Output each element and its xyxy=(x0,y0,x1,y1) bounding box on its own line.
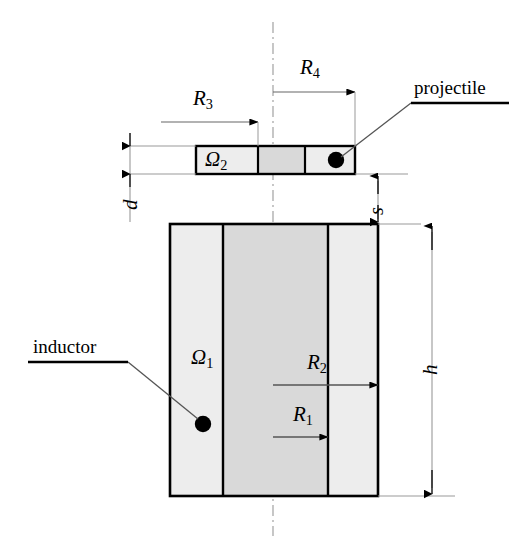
label-omega-2: Ω2 xyxy=(205,149,227,172)
projectile-callout-leader xyxy=(341,103,509,157)
label-omega-1: Ω1 xyxy=(191,347,213,370)
label-h: h xyxy=(420,365,441,376)
callout-projectile: projectile xyxy=(414,78,486,97)
label-s: s xyxy=(366,207,386,215)
projectile-point-marker xyxy=(328,152,344,168)
label-R3: R3 xyxy=(193,88,213,111)
label-R1: R1 xyxy=(293,404,313,427)
dimension-R4 xyxy=(273,92,355,146)
technical-diagram: Ω2 Ω1 R3 R4 R2 R1 d s h projectile induc… xyxy=(0,0,523,555)
dimension-R3 xyxy=(161,122,258,146)
label-d: d xyxy=(120,200,141,211)
dimension-h xyxy=(378,226,455,496)
dimension-s xyxy=(355,174,421,224)
callout-inductor: inductor xyxy=(33,337,96,356)
label-R4: R4 xyxy=(300,57,320,80)
label-R2: R2 xyxy=(307,352,327,375)
